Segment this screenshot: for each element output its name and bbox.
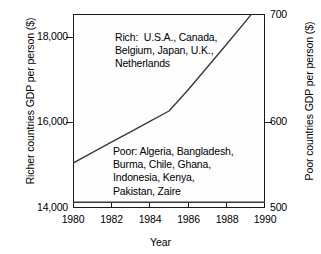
y-tick-label-16000: 16,000 (37, 115, 68, 127)
annotation-rich-countries: Rich: U.S.A., Canada, Belgium, Japan, U.… (115, 31, 217, 71)
y2-tick-label-700: 700 (270, 8, 287, 20)
y2-tick-label-600: 600 (270, 115, 287, 127)
x-axis-title: Year (0, 236, 321, 248)
x-tick-label-1986: 1986 (167, 213, 211, 225)
x-tick-label-1984: 1984 (128, 213, 172, 225)
y-tick-label-18000: 18,000 (37, 30, 68, 42)
x-tick-label-1980: 1980 (51, 213, 95, 225)
y2-axis-title: Poor countries GDP per person ($) (303, 8, 315, 194)
y2-tick-label-500: 500 (270, 201, 287, 213)
tick-mark-x-1988 (226, 203, 227, 208)
x-tick-label-1990: 1990 (243, 213, 287, 225)
tick-mark-x-1982 (111, 203, 112, 208)
y-axis-title: Richer countries GDP per person ($) (24, 8, 36, 194)
tick-mark-x-1984 (149, 203, 150, 208)
y-tick-label-14000: 14,000 (37, 201, 68, 213)
x-tick-label-1982: 1982 (90, 213, 134, 225)
chart-container: 18,000 16,000 14,000 700 600 500 1980 19… (0, 0, 321, 254)
tick-mark-x-1986 (188, 203, 189, 208)
annotation-poor-countries: Poor: Algeria, Bangladesh, Burma, Chile,… (113, 145, 233, 198)
